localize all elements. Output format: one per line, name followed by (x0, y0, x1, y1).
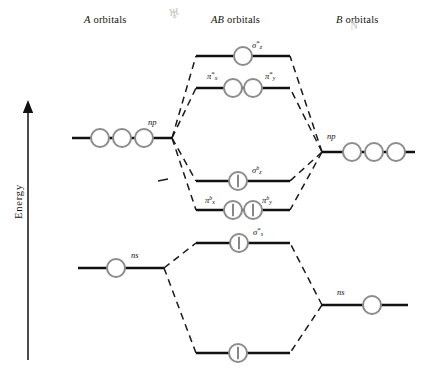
energy-level-ns-B (322, 296, 408, 314)
orbital-circle (135, 129, 153, 147)
A-ns-to-sigma-s-b (164, 268, 196, 353)
orbital-circle (224, 79, 242, 97)
A-np-to-sigma-z-star (172, 56, 196, 138)
stray-dash-icon (158, 179, 168, 181)
energy-level-ns-A (78, 259, 164, 277)
energy-level-pi-bonding (196, 201, 290, 219)
A-np-to-pi-star (172, 88, 196, 138)
B-np-to-sigma-z-star (290, 56, 322, 152)
orbital-circle (387, 143, 405, 161)
mo-diagram-canvas: A orbitals AB orbitals B orbitals ♅ N En… (0, 0, 421, 376)
energy-level-pi-antibonding (196, 79, 290, 97)
energy-levels-group (72, 47, 415, 362)
orbital-circle (343, 143, 361, 161)
A-ns-to-sigma-s-star (164, 243, 196, 268)
orbital-circle (363, 296, 381, 314)
correlation-lines-group (164, 56, 322, 353)
orbital-circle (107, 259, 125, 277)
energy-level-np-A (72, 129, 172, 147)
orbital-circle (244, 79, 262, 97)
orbital-circle (234, 47, 252, 65)
orbital-circle (365, 143, 383, 161)
energy-level-sigma-z-antibonding (196, 47, 290, 65)
B-np-to-pi-b (290, 152, 322, 210)
mo-diagram-svg (0, 0, 421, 376)
energy-level-sigma-s-bonding (196, 344, 290, 362)
energy-level-np-B (322, 143, 415, 161)
B-ns-to-sigma-s-b (290, 305, 322, 353)
energy-axis-arrowhead (23, 100, 33, 113)
B-ns-to-sigma-s-star (290, 243, 322, 305)
B-np-to-sigma-z-b (290, 152, 322, 181)
energy-level-sigma-z-bonding (196, 172, 290, 190)
orbital-circle (113, 129, 131, 147)
B-np-to-pi-star (290, 88, 322, 152)
energy-axis (23, 100, 33, 360)
orbital-circle (91, 129, 109, 147)
energy-level-sigma-s-antibonding (196, 234, 290, 252)
